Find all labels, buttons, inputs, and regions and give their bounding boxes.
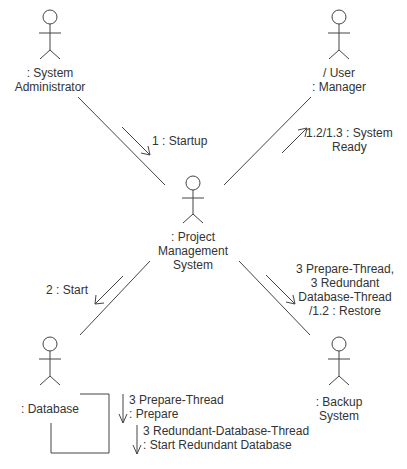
actor-label-database: : Database bbox=[0, 402, 100, 416]
actor-name-line: : Backup bbox=[289, 395, 389, 409]
message-line: Database-Thread bbox=[296, 290, 394, 304]
message-line: 3 Prepare-Thread bbox=[129, 393, 224, 407]
arrow-startup bbox=[122, 127, 150, 155]
actor-name-line: / User bbox=[289, 66, 389, 80]
link-pms-database bbox=[80, 261, 150, 335]
actor-icon-user-manager bbox=[328, 10, 350, 59]
message-start: 2 : Start bbox=[46, 283, 88, 297]
actor-icon-backup-system bbox=[328, 337, 350, 385]
message-line: 3 Redundant-Database-Thread bbox=[143, 424, 309, 438]
actor-label-user-manager: / User : Manager bbox=[289, 66, 389, 94]
message-line: 3 Prepare-Thread, bbox=[296, 262, 394, 276]
actor-name-line: Administrator bbox=[0, 80, 100, 94]
actor-label-project-management-system: : Project Management System bbox=[143, 230, 243, 272]
message-line: 3 Redundant bbox=[296, 276, 394, 290]
arrow-restore bbox=[266, 275, 295, 304]
message-startup: 1 : Startup bbox=[152, 134, 207, 148]
actor-icon-database bbox=[39, 337, 61, 385]
message-line: /1.2 : Restore bbox=[296, 304, 394, 318]
clipped-caption-fragment bbox=[20, 462, 380, 469]
link-manager-pms bbox=[224, 97, 311, 185]
actor-icon-project-management-system bbox=[182, 176, 204, 223]
actor-name-line: System bbox=[143, 258, 243, 272]
actor-label-system-administrator: : System Administrator bbox=[0, 66, 100, 94]
actor-icon-system-administrator bbox=[39, 10, 61, 59]
actor-name-line: : Project bbox=[143, 230, 243, 244]
actor-name-line: : Manager bbox=[289, 80, 389, 94]
actor-name-line: : System bbox=[0, 66, 100, 80]
message-line: : Start Redundant Database bbox=[143, 438, 309, 452]
message-line: Ready bbox=[306, 140, 393, 154]
actor-name-line: : Database bbox=[0, 402, 100, 416]
message-restore: 3 Prepare-Thread, 3 Redundant Database-T… bbox=[296, 262, 394, 318]
actor-label-backup-system: : Backup System bbox=[289, 395, 389, 423]
arrow-start bbox=[95, 276, 123, 304]
actor-name-line: Management bbox=[143, 244, 243, 258]
message-line: : Prepare bbox=[129, 407, 224, 421]
actor-name-line: System bbox=[289, 409, 389, 423]
arrow-start-redundant bbox=[133, 425, 141, 454]
message-line: 1.2/1.3 : System bbox=[306, 126, 393, 140]
message-prepare: 3 Prepare-Thread : Prepare bbox=[129, 393, 224, 421]
arrow-system-ready bbox=[282, 128, 307, 153]
message-system-ready: 1.2/1.3 : System Ready bbox=[306, 126, 393, 154]
arrow-prepare bbox=[119, 394, 127, 423]
message-start-redundant: 3 Redundant-Database-Thread : Start Redu… bbox=[143, 424, 309, 452]
